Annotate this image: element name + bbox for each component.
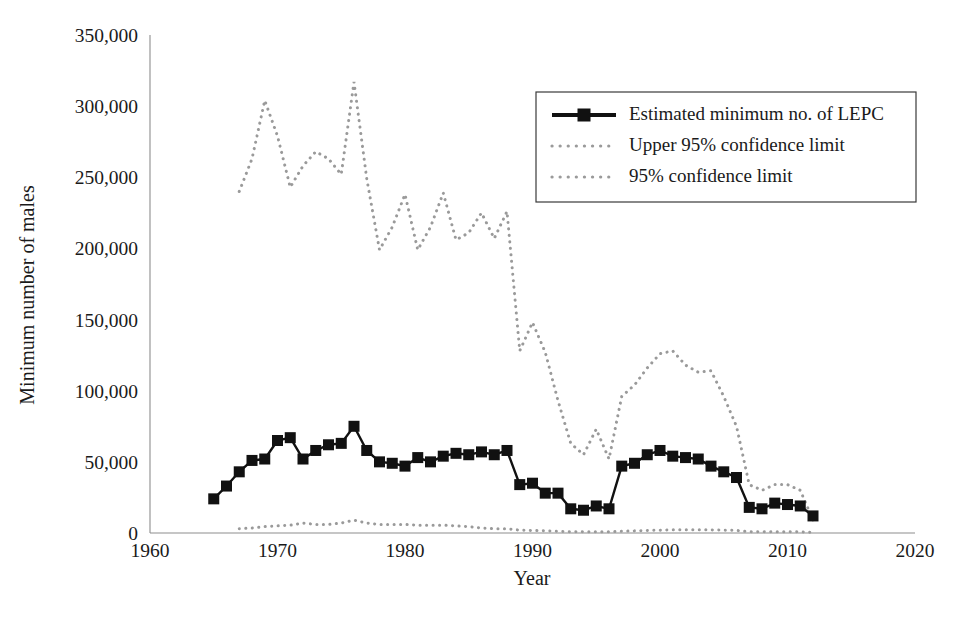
main-series-marker bbox=[565, 503, 576, 514]
main-series-marker bbox=[706, 461, 717, 472]
legend-label: 95% confidence limit bbox=[629, 165, 793, 186]
main-series-marker bbox=[489, 449, 500, 460]
main-series-marker bbox=[642, 449, 653, 460]
main-series-marker bbox=[374, 456, 385, 467]
main-series-marker bbox=[782, 499, 793, 510]
main-series-marker bbox=[361, 445, 372, 456]
x-tick-label: 1980 bbox=[386, 540, 425, 561]
y-tick-label: 250,000 bbox=[75, 167, 138, 188]
main-series-marker bbox=[808, 510, 819, 521]
x-tick-label: 2010 bbox=[768, 540, 807, 561]
main-series-marker bbox=[310, 445, 321, 456]
main-series-marker bbox=[247, 455, 258, 466]
y-axis-title: Minimum number of males bbox=[16, 185, 38, 405]
y-tick-label: 300,000 bbox=[75, 96, 138, 117]
chart-container: 050,000100,000150,000200,000250,000300,0… bbox=[0, 0, 964, 618]
main-series-marker bbox=[285, 432, 296, 443]
x-tick-label: 2020 bbox=[896, 540, 935, 561]
main-series-marker bbox=[502, 445, 513, 456]
main-series-marker bbox=[323, 439, 334, 450]
main-series-marker bbox=[298, 454, 309, 465]
main-series-marker bbox=[731, 472, 742, 483]
main-series-marker bbox=[349, 421, 360, 432]
main-series-marker bbox=[514, 479, 525, 490]
main-series-marker bbox=[412, 452, 423, 463]
main-series-marker bbox=[336, 438, 347, 449]
main-series-marker bbox=[463, 449, 474, 460]
main-series-marker bbox=[527, 478, 538, 489]
main-series-marker bbox=[553, 488, 564, 499]
main-series-marker bbox=[234, 466, 245, 477]
chart-canvas: 050,000100,000150,000200,000250,000300,0… bbox=[0, 0, 964, 618]
y-tick-label: 350,000 bbox=[75, 25, 138, 46]
main-series-marker bbox=[795, 500, 806, 511]
main-series-marker bbox=[540, 488, 551, 499]
main-series-marker bbox=[221, 481, 232, 492]
main-series-marker bbox=[387, 458, 398, 469]
main-series-marker bbox=[425, 456, 436, 467]
main-series-marker bbox=[272, 435, 283, 446]
main-series-marker bbox=[476, 446, 487, 457]
main-series-marker bbox=[616, 461, 627, 472]
main-series-marker bbox=[744, 502, 755, 513]
main-series-marker bbox=[680, 452, 691, 463]
main-series-marker bbox=[693, 454, 704, 465]
main-series-marker bbox=[604, 503, 615, 514]
main-series-marker bbox=[769, 498, 780, 509]
y-tick-label: 100,000 bbox=[75, 381, 138, 402]
main-series-marker bbox=[667, 451, 678, 462]
main-series-marker bbox=[591, 500, 602, 511]
y-tick-label: 200,000 bbox=[75, 238, 138, 259]
main-series-marker bbox=[718, 466, 729, 477]
y-tick-label: 150,000 bbox=[75, 310, 138, 331]
main-series-marker bbox=[400, 461, 411, 472]
x-axis-title: Year bbox=[514, 567, 551, 589]
legend-label: Estimated minimum no. of LEPC bbox=[629, 103, 884, 124]
legend-label: Upper 95% confidence limit bbox=[629, 134, 846, 155]
main-series-marker bbox=[757, 503, 768, 514]
main-series-marker bbox=[208, 493, 219, 504]
main-series-marker bbox=[451, 448, 462, 459]
main-series-marker bbox=[438, 451, 449, 462]
x-tick-label: 1990 bbox=[513, 540, 552, 561]
main-series-marker bbox=[259, 454, 270, 465]
x-tick-label: 1970 bbox=[258, 540, 297, 561]
x-tick-label: 2000 bbox=[641, 540, 680, 561]
main-series-marker bbox=[578, 505, 589, 516]
main-series-marker bbox=[655, 445, 666, 456]
chart-legend: Estimated minimum no. of LEPCUpper 95% c… bbox=[536, 92, 916, 202]
x-tick-label: 1960 bbox=[131, 540, 170, 561]
main-series-marker bbox=[629, 458, 640, 469]
y-tick-label: 50,000 bbox=[84, 452, 138, 473]
legend-square-marker-swatch bbox=[578, 109, 591, 122]
